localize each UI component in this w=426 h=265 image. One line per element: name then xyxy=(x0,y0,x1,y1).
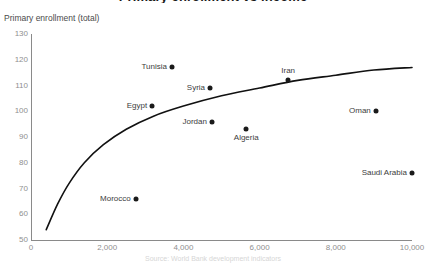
x-axis-line xyxy=(31,240,412,241)
trend-line xyxy=(0,0,426,265)
data-point-label: Iran xyxy=(281,67,295,75)
data-point-label: Oman xyxy=(349,107,371,115)
x-tick-label: 4,000 xyxy=(153,244,213,252)
y-tick-label: 90 xyxy=(4,133,28,141)
data-point-label: Tunisia xyxy=(141,63,167,71)
y-axis-line xyxy=(31,34,32,241)
y-tick-label: 70 xyxy=(4,185,28,193)
data-point-saudi-arabia[interactable] xyxy=(410,171,415,176)
x-tick-label: 8,000 xyxy=(306,244,366,252)
x-tick-label: 6,000 xyxy=(230,244,290,252)
y-tick-label: 50 xyxy=(4,236,28,244)
data-point-egypt[interactable] xyxy=(150,104,155,109)
chart-caption: Source: World Bank development indicator… xyxy=(0,255,426,265)
data-point-oman[interactable] xyxy=(373,109,378,114)
data-point-syria[interactable] xyxy=(208,86,213,91)
data-point-tunisia[interactable] xyxy=(169,65,174,70)
data-point-morocco[interactable] xyxy=(133,196,138,201)
y-tick-label: 100 xyxy=(4,107,28,115)
x-tick-label: 10,000 xyxy=(382,244,426,252)
data-point-iran[interactable] xyxy=(286,78,291,83)
y-tick-label: 130 xyxy=(4,30,28,38)
data-point-jordan[interactable] xyxy=(209,119,214,124)
data-point-label: Jordan xyxy=(183,118,207,126)
y-tick-label: 120 xyxy=(4,56,28,64)
data-point-label: Algeria xyxy=(234,134,259,142)
data-point-label: Egypt xyxy=(127,102,147,110)
y-tick-label: 60 xyxy=(4,210,28,218)
data-point-label: Saudi Arabia xyxy=(362,169,407,177)
x-tick-label: 2,000 xyxy=(77,244,137,252)
data-point-label: Morocco xyxy=(100,195,131,203)
y-tick-label: 80 xyxy=(4,159,28,167)
y-tick-label: 110 xyxy=(4,82,28,90)
x-tick-label: 0 xyxy=(1,244,61,252)
data-point-algeria[interactable] xyxy=(244,127,249,132)
plot-area: 1301201101009080706050 02,0004,0006,0008… xyxy=(0,0,426,265)
data-point-label: Syria xyxy=(187,84,205,92)
